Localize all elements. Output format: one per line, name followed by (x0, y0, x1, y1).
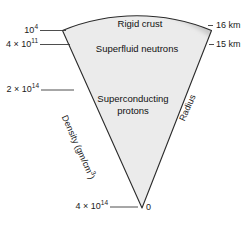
layer-label-rigid-crust: Rigid crust (105, 19, 175, 29)
density-tick-label-3: 2 × 1014 (0, 85, 39, 94)
density-tick-label-2: 4 × 1011 (0, 40, 38, 49)
layer-label-superfluid-neutrons: Superfluid neutrons (82, 44, 192, 54)
radius-tick-label-zero: 0 (146, 203, 151, 212)
density-tick-label-1: 104 (0, 26, 38, 35)
radius-tick-label-16km: 16 km (216, 21, 241, 30)
radius-tick-label-15km: 15 km (216, 40, 241, 49)
layer-label-superconducting-protons-line1: Superconducting (78, 94, 188, 104)
layer-label-superconducting-protons-line2: protons (78, 106, 188, 116)
density-tick-label-4: 4 × 1014 (62, 202, 108, 211)
